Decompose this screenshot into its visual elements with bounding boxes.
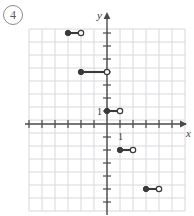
y-axis-tick-label-one: 1 — [97, 106, 102, 117]
step-segment — [65, 30, 83, 35]
axis-ticks — [29, 33, 172, 202]
step-segment — [104, 108, 122, 113]
open-endpoint — [104, 69, 109, 74]
open-endpoint — [130, 147, 135, 152]
closed-endpoint — [65, 30, 70, 35]
step-segment — [143, 186, 161, 191]
y-axis-label: y — [96, 9, 102, 21]
closed-endpoint — [143, 186, 148, 191]
open-endpoint — [117, 108, 122, 113]
closed-endpoint — [117, 147, 122, 152]
step-segment — [117, 147, 135, 152]
open-endpoint — [78, 30, 83, 35]
closed-endpoint — [104, 108, 109, 113]
coordinate-plane: y x 1 1 — [0, 0, 194, 216]
x-axis-tick-label-one: 1 — [118, 131, 123, 142]
x-axis-label: x — [185, 127, 191, 139]
open-endpoint — [156, 186, 161, 191]
problem-number-badge: 4 — [3, 5, 23, 25]
closed-endpoint — [78, 69, 83, 74]
y-axis-arrowhead — [104, 12, 111, 19]
graph-figure: 4 y x 1 1 — [0, 0, 194, 216]
